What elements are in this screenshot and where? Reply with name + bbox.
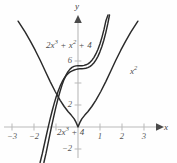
- curve-label-cubic-plain: 2x3 + 4: [57, 128, 84, 137]
- x-axis-arrowhead: [156, 123, 164, 131]
- y-tick-label-6: 6: [60, 56, 72, 65]
- x-tick-label-pos1: 1: [93, 132, 107, 141]
- label-part-mid: + x: [58, 40, 73, 50]
- label-part-tail: + 4: [76, 40, 91, 50]
- label-part-exp1: 2: [134, 64, 137, 71]
- curve-label-cubic-with-quadratic: 2x3 + x2 + 4: [46, 41, 92, 50]
- y-axis-label: y: [75, 2, 79, 11]
- label-part-tail: + 4: [69, 127, 84, 137]
- x-tick-label-pos3: 3: [137, 132, 151, 141]
- label-part-base1: 2x: [46, 40, 55, 50]
- y-tick-label-2: 2: [60, 100, 72, 109]
- x-tick-label-neg2: −2: [27, 132, 41, 141]
- x-axis-label: x: [164, 123, 168, 132]
- curve-label-parabola: x2: [130, 67, 137, 76]
- y-axis-arrowhead: [74, 15, 82, 23]
- x-tick-label-neg3: −3: [5, 132, 19, 141]
- label-part-base1: 2x: [57, 127, 66, 137]
- function-graph-figure: 2x3 + x2 + 4 2x3 + 4 x2 −3 −2 1 2 3 6 2 …: [0, 0, 177, 163]
- y-tick-label-neg2: −2: [58, 144, 72, 153]
- x-tick-label-pos2: 2: [115, 132, 129, 141]
